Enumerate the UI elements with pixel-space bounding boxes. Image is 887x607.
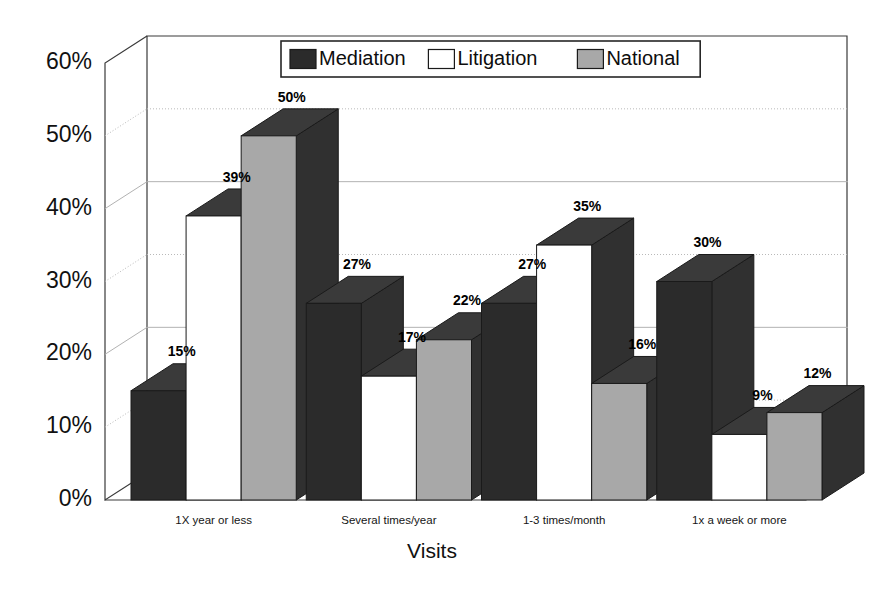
value-label: 50% xyxy=(278,89,307,105)
y-tick-label: 10% xyxy=(46,412,92,438)
chart-container: 0%10%20%30%40%50%60% 15%39%50%27%17%22%2… xyxy=(0,0,887,607)
y-tick-label: 0% xyxy=(59,485,92,511)
category-label: 1X year or less xyxy=(175,514,252,526)
value-label: 39% xyxy=(223,169,252,185)
category-labels: 1X year or lessSeveral times/year1-3 tim… xyxy=(175,514,786,526)
value-label: 27% xyxy=(343,256,372,272)
category-label: 1-3 times/month xyxy=(523,514,605,526)
category-label: 1x a week or more xyxy=(692,514,787,526)
gridline-depth-50% xyxy=(105,109,147,136)
y-tick-label: 30% xyxy=(46,267,92,293)
category-label: Several times/year xyxy=(341,514,436,526)
legend-label-mediation: Mediation xyxy=(319,47,406,69)
value-label: 16% xyxy=(628,336,657,352)
gridline-depth-20% xyxy=(105,327,147,354)
value-label: 17% xyxy=(398,329,427,345)
bar-chart-3d: 0%10%20%30%40%50%60% 15%39%50%27%17%22%2… xyxy=(0,0,887,607)
bar-national-3 xyxy=(767,386,864,500)
legend-swatch-litigation xyxy=(428,50,454,69)
legend-label-litigation: Litigation xyxy=(457,47,537,69)
legend-swatch-national xyxy=(577,50,603,69)
x-axis-title: Visits xyxy=(407,539,457,562)
y-tick-label: 60% xyxy=(46,48,92,74)
y-tick-label: 20% xyxy=(46,339,92,365)
value-label: 22% xyxy=(453,292,482,308)
gridline-depth-30% xyxy=(105,255,147,282)
value-label: 27% xyxy=(518,256,547,272)
value-label: 15% xyxy=(168,343,197,359)
bars-layer xyxy=(131,109,864,500)
legend-label-national: National xyxy=(606,47,679,69)
value-label: 35% xyxy=(573,198,602,214)
value-label: 12% xyxy=(804,365,833,381)
y-axis-tick-labels: 0%10%20%30%40%50%60% xyxy=(46,48,92,511)
value-label: 30% xyxy=(693,234,722,250)
gridline-depth-40% xyxy=(105,182,147,209)
value-label: 9% xyxy=(752,387,773,403)
y-tick-label: 50% xyxy=(46,121,92,147)
legend-swatch-mediation xyxy=(290,50,316,69)
y-tick-label: 40% xyxy=(46,194,92,220)
chart-legend: MediationLitigationNational xyxy=(281,41,700,77)
